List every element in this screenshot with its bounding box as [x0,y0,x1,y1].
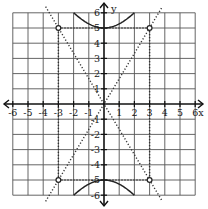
y-tick-label: 3 [94,53,100,64]
y-axis-label: y [110,3,117,14]
x-tick-label: -6 [8,107,17,118]
y-tick-label: -5 [91,174,100,185]
y-tick-label: 5 [94,22,100,33]
x-tick-label: -4 [39,107,48,118]
corner-point-circle [56,26,61,31]
axes [4,3,203,206]
x-tick-label: -5 [23,107,32,118]
tick-labels: -6-5-4-3-2-1123456654321-1-2-3-4-5-6xy [8,3,204,201]
x-tick-label: 1 [116,107,122,118]
y-tick-label: -2 [91,129,100,140]
y-tick-label: 4 [94,38,100,49]
x-tick-label: 3 [147,107,153,118]
y-tick-label: -1 [91,114,100,125]
y-tick-label: -6 [91,190,100,201]
x-tick-label: 5 [177,107,183,118]
hyperbola-graph: -6-5-4-3-2-1123456654321-1-2-3-4-5-6xy [0,0,208,209]
corner-point-circle [147,178,152,183]
x-tick-label: 4 [162,107,168,118]
corner-point-circle [56,178,61,183]
y-tick-label: 2 [94,68,100,79]
y-tick-label: 1 [94,83,100,94]
x-tick-label: -3 [54,107,63,118]
corner-point-circle [147,26,152,31]
x-tick-label: 6 [192,107,198,118]
y-tick-label: -4 [91,159,100,170]
x-axis-label: x [198,107,204,118]
y-tick-label: 6 [94,7,100,18]
coordinate-plane: -6-5-4-3-2-1123456654321-1-2-3-4-5-6xy [0,0,208,209]
x-tick-label: -2 [69,107,78,118]
x-tick-label: 2 [131,107,137,118]
y-tick-label: -3 [91,144,100,155]
